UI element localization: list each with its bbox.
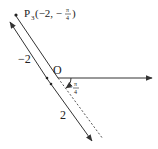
polar-diagram: O P 3 (−2, − π 4 ) − π 4 −2 2	[0, 0, 158, 149]
angle-label-num: π	[74, 81, 77, 87]
origin-tick-2	[50, 83, 53, 86]
angle-label-sign: −	[67, 82, 72, 92]
p3-angle-den: 4	[66, 15, 69, 21]
segment-label-positive: 2	[60, 108, 66, 122]
p3-label-coords: (−2, −	[35, 7, 62, 20]
ray-p3-to-pole	[16, 16, 58, 78]
pole-label: O	[53, 63, 62, 77]
distance-line	[10, 22, 48, 80]
p3-angle-num: π	[66, 7, 69, 13]
p3-point	[14, 13, 17, 16]
origin-tick	[46, 77, 49, 80]
p3-label-close: )	[72, 7, 76, 20]
angle-label-den: 4	[74, 89, 77, 95]
p3-label-name: P	[24, 7, 30, 19]
segment-label-negative: −2	[18, 52, 31, 66]
